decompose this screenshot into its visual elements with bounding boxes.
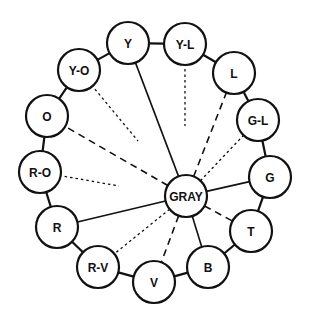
spoke-dashed-t xyxy=(204,206,232,221)
color-node-v: V xyxy=(133,261,175,303)
color-node-rv: R-V xyxy=(77,246,119,288)
node-label-r: R xyxy=(53,221,62,235)
ring-connector-b-v xyxy=(174,273,188,277)
color-node-g: G xyxy=(249,156,291,198)
spoke-dashed-l xyxy=(194,93,227,177)
node-label-l: L xyxy=(230,67,237,81)
color-node-yl: Y-L xyxy=(164,23,206,65)
spoke-dotted-yo xyxy=(95,89,138,141)
ring-connector-yl-l xyxy=(203,55,216,63)
node-label-rv: R-V xyxy=(88,261,109,275)
color-nodes: YY-LLG-LGTBVR-VRR-OOY-OGRAY xyxy=(19,22,291,303)
spoke-dashed-v xyxy=(161,216,178,263)
color-node-yo: Y-O xyxy=(58,49,100,91)
node-label-y: Y xyxy=(124,37,132,51)
ring-connector-gl-g xyxy=(262,141,265,157)
node-label-gray: GRAY xyxy=(169,190,203,204)
ring-connector-o-yo xyxy=(59,87,67,99)
spoke-solid-y xyxy=(135,63,178,177)
color-node-y: Y xyxy=(107,22,149,64)
ring-connector-l-gl xyxy=(244,92,249,102)
ring-connector-g-t xyxy=(258,197,263,211)
color-node-l: L xyxy=(213,52,255,94)
node-label-t: T xyxy=(247,225,255,239)
ring-connector-v-rv xyxy=(118,272,133,276)
node-label-o: O xyxy=(42,110,51,124)
node-label-b: B xyxy=(204,261,213,275)
ring-connector-yo-y xyxy=(97,53,109,60)
spoke-dotted-rv xyxy=(114,209,169,254)
node-label-yl: Y-L xyxy=(176,38,195,52)
color-node-ro: R-O xyxy=(19,151,61,193)
spoke-dashed-o xyxy=(65,126,168,185)
node-label-v: V xyxy=(150,276,158,290)
ring-connector-rv-r xyxy=(72,242,83,253)
node-label-gl: G-L xyxy=(248,114,269,128)
node-label-ro: R-O xyxy=(29,166,51,180)
color-node-gl: G-L xyxy=(237,99,279,141)
node-label-g: G xyxy=(265,171,274,185)
spoke-solid-g xyxy=(206,182,249,192)
spoke-solid-b xyxy=(192,216,202,247)
node-label-yo: Y-O xyxy=(69,64,90,78)
ring-connector-r-ro xyxy=(46,192,51,207)
color-circle-diagram: YY-LLG-LGTBVR-VRR-OOY-OGRAY xyxy=(0,0,311,315)
color-node-gray: GRAY xyxy=(165,175,207,217)
color-node-r: R xyxy=(36,206,78,248)
color-node-b: B xyxy=(187,246,229,288)
spokes-to-gray xyxy=(65,63,250,263)
ring-connector-t-b xyxy=(224,244,235,253)
spoke-solid-r xyxy=(77,201,165,222)
color-node-o: O xyxy=(26,95,68,137)
spoke-dotted-ro xyxy=(65,176,119,186)
ring-connector-ro-o xyxy=(43,137,45,151)
color-node-t: T xyxy=(230,210,272,252)
